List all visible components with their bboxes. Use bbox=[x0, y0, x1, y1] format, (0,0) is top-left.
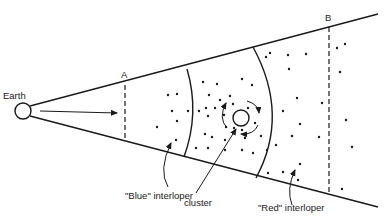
blue-interloper-pointer bbox=[164, 143, 171, 187]
red-interloper-pointer bbox=[290, 170, 295, 205]
cone-bottom-edge bbox=[30, 116, 378, 207]
inner-shell-arc bbox=[184, 69, 193, 157]
earth-label: Earth bbox=[3, 90, 26, 101]
boundary-b-label: B bbox=[325, 12, 331, 23]
red-interloper-label: "Red" interloper bbox=[258, 202, 324, 213]
earth-circle bbox=[15, 103, 31, 119]
boundary-a-label: A bbox=[121, 69, 128, 80]
cluster-core-circle bbox=[233, 110, 249, 126]
cluster-label: cluster bbox=[184, 197, 212, 208]
blue-interloper-label: "Blue" interloper bbox=[125, 190, 193, 201]
line-of-sight-diagram: Earth A B bbox=[0, 0, 389, 223]
rotation-arrow-bottom-right bbox=[241, 125, 258, 134]
line-of-sight-arrow bbox=[40, 111, 117, 113]
outer-shell-arc bbox=[253, 47, 272, 178]
rotation-arrow-top-right bbox=[247, 101, 259, 113]
cone-top-edge bbox=[30, 14, 378, 106]
